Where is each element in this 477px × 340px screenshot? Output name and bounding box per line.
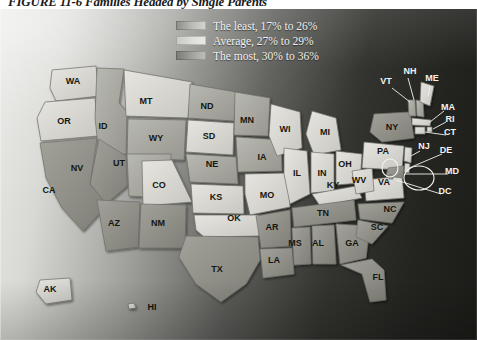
legend-swatch-most	[176, 51, 206, 60]
legend-swatch-least	[176, 21, 206, 30]
legend-item-most: The most, 30% to 36%	[176, 49, 319, 62]
legend-label-least: The least, 17% to 26%	[213, 20, 317, 32]
legend-item-average: Average, 27% to 29%	[176, 34, 319, 47]
legend-label-most: The most, 30% to 36%	[213, 50, 319, 62]
figure-title-strip: FIGURE 11-6 Families Headed by Single Pa…	[0, 0, 477, 9]
legend-label-average: Average, 27% to 29%	[213, 35, 314, 47]
map-legend: The least, 17% to 26% Average, 27% to 29…	[176, 19, 319, 64]
figure-screenshot: WAMTNDORIDMNWIMIWYSDNYNVUTNEIAILINOHPACO…	[0, 0, 477, 340]
legend-item-least: The least, 17% to 26%	[176, 19, 319, 32]
figure-panel: WAMTNDORIDMNWIMIWYSDNYNVUTNEIAILINOHPACO…	[0, 8, 477, 340]
legend-swatch-average	[176, 36, 206, 45]
figure-title: FIGURE 11-6 Families Headed by Single Pa…	[8, 0, 267, 9]
